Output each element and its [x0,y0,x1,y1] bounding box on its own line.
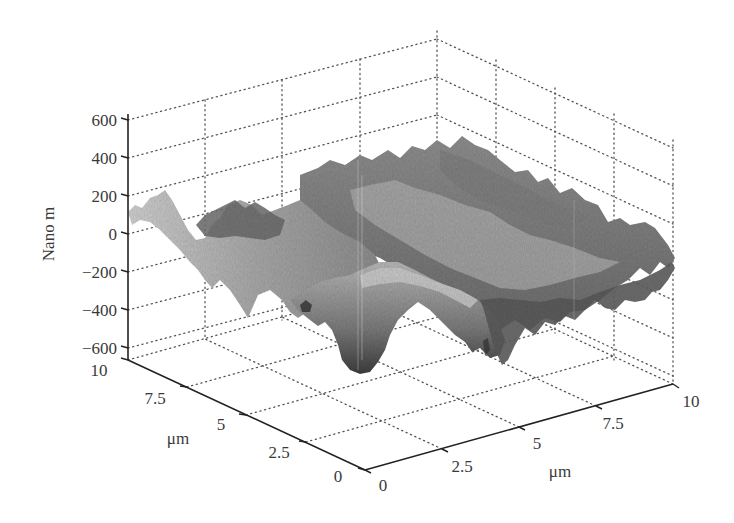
surface-mesh [128,136,675,374]
z-axis-title: Nano m [39,207,58,261]
y-tick-labels: 10 7.5 5 2.5 0 [91,361,343,486]
x-tick-label: 2.5 [451,457,472,476]
z-tick-label: −200 [82,263,117,282]
y-axis-title: μm [167,429,189,448]
surface-plot: 600 400 200 0 −200 −400 −600 10 7.5 5 2.… [0,0,734,523]
y-axis-line [128,360,365,470]
y-tick-label: 5 [217,415,226,434]
y-tick-label: 2.5 [268,443,289,462]
y-tick-label: 7.5 [144,389,165,408]
z-tick-label: 600 [92,111,118,130]
z-tick-label: 0 [109,225,118,244]
x-tick-label: 5 [533,434,542,453]
x-tick-label: 0 [379,476,388,495]
y-tick-label: 10 [91,361,108,380]
z-tick-label: 400 [92,149,118,168]
y-tick-label: 0 [334,467,343,486]
x-tick-label: 10 [683,392,700,411]
z-tick-labels: 600 400 200 0 −200 −400 −600 [82,111,117,358]
z-tick-label: −400 [82,301,117,320]
z-tick-label: −600 [82,339,117,358]
x-tick-labels: 0 2.5 5 7.5 10 [379,392,700,495]
x-tick-label: 7.5 [602,414,623,433]
z-tick-label: 200 [92,187,118,206]
x-axis-title: μm [549,462,571,481]
